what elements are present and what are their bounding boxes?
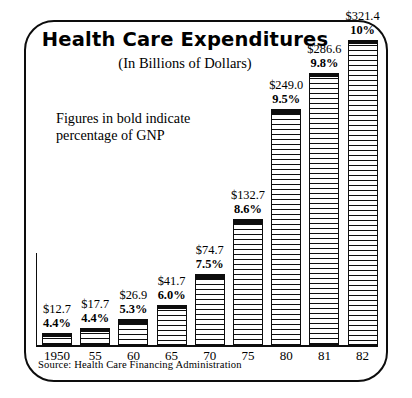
x-axis-line <box>36 345 378 347</box>
chart-figure: Health Care Expenditures (In Billions of… <box>0 0 412 398</box>
bar <box>118 319 148 345</box>
bar <box>157 305 187 345</box>
bar <box>271 109 301 345</box>
bar <box>42 333 72 345</box>
bar <box>309 73 339 345</box>
chart-source: Source: Health Care Financing Administra… <box>38 359 242 370</box>
bar <box>348 40 378 345</box>
x-tick-label: 82 <box>333 348 393 364</box>
bar <box>195 274 225 345</box>
bar-value-label: $321.4 <box>323 9 403 24</box>
bar <box>80 328 110 345</box>
plot-area: $12.74.4%1950$17.74.4%55$26.95.3%60$41.7… <box>0 0 412 398</box>
y-axis-line <box>36 253 37 345</box>
bar <box>233 219 263 345</box>
bar-percent-label: 10% <box>323 23 403 38</box>
